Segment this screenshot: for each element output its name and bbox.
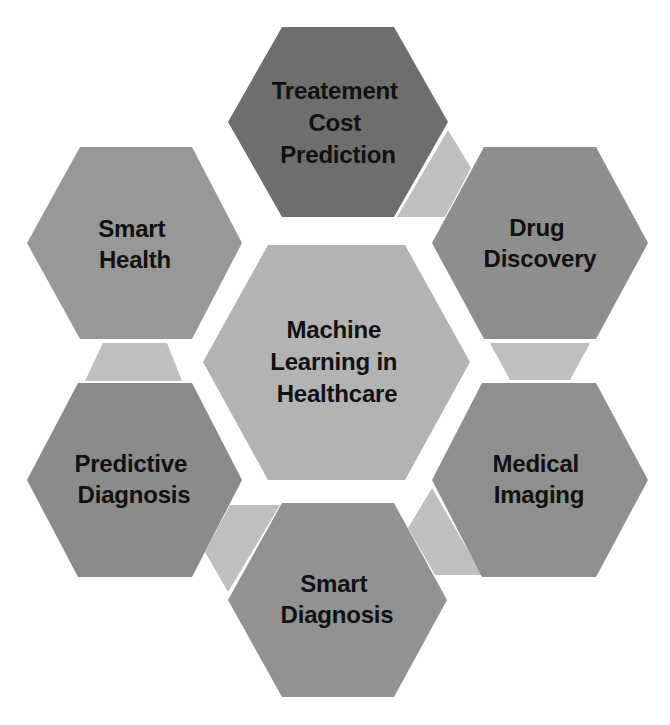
diagram-svg: Treatement Cost Prediction Drug Discover… bbox=[0, 0, 670, 725]
label-line: Health bbox=[99, 246, 171, 273]
label-line: Imaging bbox=[494, 481, 585, 508]
label-line: Discovery bbox=[484, 245, 598, 272]
hexagon-diagram: Treatement Cost Prediction Drug Discover… bbox=[0, 0, 670, 725]
label-line: Prediction bbox=[280, 141, 395, 168]
label-line: Smart bbox=[98, 215, 165, 242]
label-line: Drug bbox=[509, 214, 564, 241]
label-line: Machine bbox=[286, 316, 381, 343]
label-line: Cost bbox=[308, 109, 361, 136]
hex-smart-health: Smart Health bbox=[27, 147, 242, 339]
label-line: Medical bbox=[492, 450, 579, 477]
hex-center-machine-learning-in-healthcare: Machine Learning in Healthcare bbox=[203, 245, 470, 480]
label-line: Treatement bbox=[272, 77, 398, 104]
connector-predictive-smarthealth bbox=[85, 343, 182, 381]
label-line: Learning in bbox=[270, 348, 397, 375]
label-line: Diagnosis bbox=[78, 481, 191, 508]
label-line: Smart bbox=[300, 570, 367, 597]
label-line: Diagnosis bbox=[281, 601, 394, 628]
hexagon-shape bbox=[27, 147, 242, 339]
label-line: Healthcare bbox=[277, 380, 398, 407]
label-line: Predictive bbox=[74, 450, 187, 477]
center-label: Machine Learning in Healthcare bbox=[270, 316, 404, 407]
connector-drug-medical bbox=[490, 343, 590, 380]
